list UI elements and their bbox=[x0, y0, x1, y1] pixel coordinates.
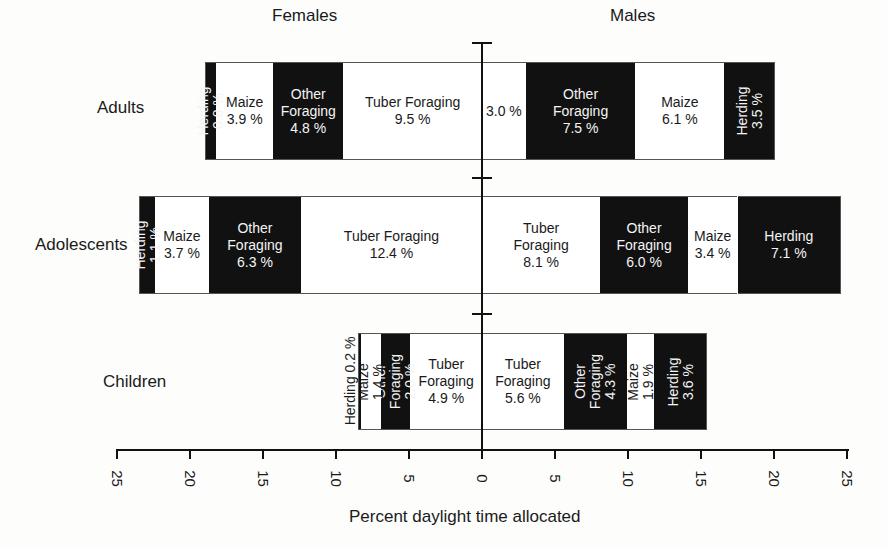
bar-segment-label: Other Foraging 7.5 % bbox=[553, 86, 608, 137]
bar-segment-children-males-tuber-foraging: Tuber Foraging 5.6 % bbox=[482, 333, 564, 430]
bar-segment-label: Other Foraging 6.0 % bbox=[616, 220, 671, 271]
bar-segment-adults-females-herding: Herding 0.8 % bbox=[205, 62, 217, 160]
x-tick-mark bbox=[627, 449, 629, 459]
bar-segment-label: Other Foraging 4.3 % bbox=[573, 350, 618, 413]
x-tick-mark bbox=[408, 449, 410, 459]
bar-segment-label: Herding 0.8 % bbox=[196, 86, 226, 135]
bar-segment-label: Maize 3.9 % bbox=[226, 94, 263, 128]
bar-segment-label: Other Foraging 4.8 % bbox=[281, 86, 336, 137]
bar-segment-children-females-tuber-foraging: Tuber Foraging 4.9 % bbox=[410, 333, 482, 430]
bar-segment-label: Tuber Foraging 5.6 % bbox=[495, 356, 550, 407]
x-tick-mark bbox=[700, 449, 702, 459]
bar-segment-label: Other Foraging 6.3 % bbox=[227, 220, 282, 271]
bar-segment-label: Herding 1.1 % bbox=[132, 220, 162, 269]
x-tick-label: 5 bbox=[547, 464, 564, 494]
bar-segment-adolescents-males-herding: Herding 7.1 % bbox=[738, 196, 842, 294]
bar-segment-label: Tuber Foraging 8.1 % bbox=[513, 220, 568, 271]
bar-segment-children-males-maize: Maize 1.9 % bbox=[627, 333, 655, 430]
bar-segment-label: Maize 6.1 % bbox=[661, 94, 698, 128]
bar-segment-label: 3.0 % bbox=[486, 103, 522, 120]
x-tick-mark bbox=[189, 449, 191, 459]
bar-segment-adults-males-tuber-foraging: 3.0 % bbox=[482, 62, 526, 160]
x-tick-label: 25 bbox=[839, 464, 856, 494]
center-cross-tick bbox=[472, 42, 492, 44]
x-tick-label: 20 bbox=[766, 464, 783, 494]
x-axis-title: Percent daylight time allocated bbox=[349, 507, 581, 527]
females-header: Females bbox=[272, 6, 337, 26]
x-tick-label: 10 bbox=[328, 464, 345, 494]
bar-segment-outside-label: Herding 0.2 % bbox=[342, 333, 358, 429]
bar-segment-children-males-herding: Herding 3.6 % bbox=[654, 333, 707, 430]
bar-segment-children-females-herding bbox=[358, 333, 361, 430]
center-cross-tick bbox=[472, 177, 492, 179]
x-tick-label: 10 bbox=[620, 464, 637, 494]
x-tick-mark bbox=[773, 449, 775, 459]
bar-segment-adolescents-males-tuber-foraging: Tuber Foraging 8.1 % bbox=[482, 196, 600, 294]
males-header: Males bbox=[610, 6, 655, 26]
bar-segment-adolescents-females-tuber-foraging: Tuber Foraging 12.4 % bbox=[301, 196, 482, 294]
x-tick-mark bbox=[846, 449, 848, 459]
center-cross-tick bbox=[472, 313, 492, 315]
bar-segment-adolescents-females-maize: Maize 3.7 % bbox=[155, 196, 209, 294]
bar-segment-adolescents-females-other-foraging: Other Foraging 6.3 % bbox=[209, 196, 301, 294]
group-label-children: Children bbox=[103, 372, 166, 392]
bar-segment-label: Maize 3.7 % bbox=[163, 228, 200, 262]
x-tick-label: 15 bbox=[693, 464, 710, 494]
x-tick-mark bbox=[116, 449, 118, 459]
x-tick-label: 5 bbox=[401, 464, 418, 494]
bar-segment-label: Maize 1.9 % bbox=[625, 363, 655, 400]
bar-segment-adolescents-males-maize: Maize 3.4 % bbox=[688, 196, 738, 294]
diverging-bar-chart: Females Males Adults Adolescents Childre… bbox=[0, 0, 888, 549]
bar-segment-adults-males-herding: Herding 3.5 % bbox=[724, 62, 775, 160]
bar-segment-label: Tuber Foraging 4.9 % bbox=[419, 356, 474, 407]
group-label-adolescents: Adolescents bbox=[35, 235, 128, 255]
x-tick-mark bbox=[481, 449, 483, 459]
bar-segment-label: Herding 7.1 % bbox=[764, 228, 813, 262]
bar-segment-adults-females-tuber-foraging: Tuber Foraging 9.5 % bbox=[343, 62, 482, 160]
x-tick-label: 15 bbox=[255, 464, 272, 494]
x-tick-label: 20 bbox=[182, 464, 199, 494]
bar-segment-children-males-other-foraging: Other Foraging 4.3 % bbox=[564, 333, 627, 430]
bar-segment-children-females-maize: Maize 1.4 % bbox=[361, 333, 381, 430]
x-tick-mark bbox=[262, 449, 264, 459]
bar-segment-adults-females-other-foraging: Other Foraging 4.8 % bbox=[273, 62, 343, 160]
x-tick-mark bbox=[335, 449, 337, 459]
group-label-adults: Adults bbox=[97, 98, 144, 118]
bar-segment-adolescents-males-other-foraging: Other Foraging 6.0 % bbox=[600, 196, 688, 294]
bar-segment-adults-males-maize: Maize 6.1 % bbox=[635, 62, 724, 160]
x-tick-label: 0 bbox=[474, 464, 491, 494]
x-tick-mark bbox=[554, 449, 556, 459]
bar-segment-label: Tuber Foraging 9.5 % bbox=[365, 94, 460, 128]
center-axis-line bbox=[481, 43, 483, 451]
x-tick-label: 25 bbox=[109, 464, 126, 494]
bar-segment-label: Herding 3.6 % bbox=[665, 357, 695, 406]
bar-segment-label: Herding 3.5 % bbox=[734, 86, 764, 135]
x-axis-line bbox=[117, 449, 849, 451]
bar-segment-adolescents-females-herding: Herding 1.1 % bbox=[139, 196, 155, 294]
bar-segment-label: Tuber Foraging 12.4 % bbox=[344, 228, 439, 262]
bar-segment-label: Maize 3.4 % bbox=[694, 228, 731, 262]
bar-segment-adults-males-other-foraging: Other Foraging 7.5 % bbox=[526, 62, 636, 160]
